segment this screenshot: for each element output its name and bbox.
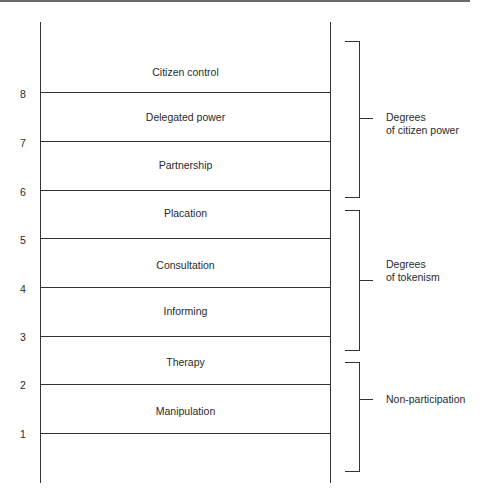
rung-line-2 bbox=[40, 384, 331, 385]
rung-label-informing: Informing bbox=[40, 305, 331, 317]
rung-label-therapy: Therapy bbox=[40, 356, 331, 368]
rung-line-4 bbox=[40, 287, 331, 288]
rung-number-2: 2 bbox=[18, 379, 28, 391]
group-label-citizen-power-line2: of citizen power bbox=[386, 124, 459, 137]
group-label-tokenism-line2: of tokenism bbox=[386, 271, 440, 284]
group-label-citizen-power-line1: Degrees bbox=[386, 111, 459, 124]
bracket-non-participation bbox=[345, 362, 360, 472]
bracket-tick-tokenism bbox=[360, 280, 373, 281]
rung-line-1 bbox=[40, 433, 331, 434]
rung-number-3: 3 bbox=[18, 331, 28, 343]
rung-label-citizen-control: Citizen control bbox=[40, 66, 331, 78]
rung-line-7 bbox=[40, 141, 331, 142]
rung-line-3 bbox=[40, 336, 331, 337]
top-border bbox=[0, 0, 470, 2]
rung-number-1: 1 bbox=[18, 428, 28, 440]
rung-number-8: 8 bbox=[18, 88, 28, 100]
rung-label-consultation: Consultation bbox=[40, 259, 331, 271]
rung-label-partnership: Partnership bbox=[40, 159, 331, 171]
group-label-tokenism: Degrees of tokenism bbox=[386, 258, 440, 284]
rung-number-6: 6 bbox=[18, 186, 28, 198]
rung-label-placation: Placation bbox=[40, 207, 331, 219]
rung-line-6 bbox=[40, 190, 331, 191]
rung-number-7: 7 bbox=[18, 137, 28, 149]
rung-label-delegated-power: Delegated power bbox=[40, 111, 331, 123]
rung-number-5: 5 bbox=[18, 234, 28, 246]
bracket-tick-citizen-power bbox=[360, 118, 373, 119]
rung-number-4: 4 bbox=[18, 283, 28, 295]
bracket-tokenism bbox=[345, 210, 360, 351]
rung-line-5 bbox=[40, 238, 331, 239]
group-label-tokenism-line1: Degrees bbox=[386, 258, 440, 271]
bracket-citizen-power bbox=[345, 41, 360, 198]
group-label-non-participation: Non-participation bbox=[386, 393, 465, 406]
group-label-citizen-power: Degrees of citizen power bbox=[386, 111, 459, 137]
rung-line-8 bbox=[40, 92, 331, 93]
bracket-tick-non-participation bbox=[360, 399, 373, 400]
rung-label-manipulation: Manipulation bbox=[40, 405, 331, 417]
